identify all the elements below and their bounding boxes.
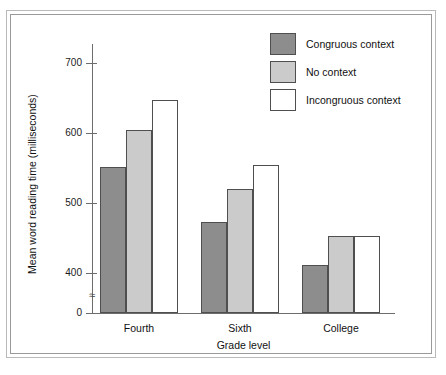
- y-axis-title: Mean word reading time (milliseconds): [26, 89, 38, 279]
- legend-label: Congruous context: [306, 38, 394, 50]
- bar: [227, 189, 253, 313]
- x-axis-group-label: Sixth: [183, 322, 297, 334]
- y-axis-tick-label: 500: [38, 198, 82, 208]
- bar: [126, 130, 152, 313]
- legend-swatch: [270, 61, 296, 83]
- y-axis-tick-label: 600: [38, 128, 82, 138]
- legend-swatch: [270, 89, 296, 111]
- bar: [302, 265, 328, 313]
- legend-label: No context: [306, 66, 356, 78]
- axis-break-icon: ≈: [86, 289, 98, 301]
- bar: [354, 236, 380, 313]
- x-axis-line: [92, 313, 395, 314]
- bar: [100, 167, 126, 313]
- bar: [328, 236, 354, 313]
- x-axis-group-label: College: [284, 322, 398, 334]
- x-axis-group-label: Fourth: [82, 322, 196, 334]
- y-axis-tick: [86, 133, 97, 134]
- y-axis-tick: [86, 273, 97, 274]
- bar-chart: 0400500600700 ≈ Mean word reading time (…: [0, 0, 446, 375]
- x-axis-title: Grade level: [92, 339, 395, 351]
- y-axis-tick-label: 400: [38, 268, 82, 278]
- y-axis-tick: [86, 313, 97, 314]
- bar: [152, 100, 178, 313]
- y-axis-tick: [86, 203, 97, 204]
- legend-label: Incongruous context: [306, 94, 401, 106]
- y-axis-tick-label: 0: [38, 308, 82, 318]
- figure-root: 0400500600700 ≈ Mean word reading time (…: [0, 0, 446, 375]
- y-axis-tick: [86, 63, 97, 64]
- bar: [201, 222, 227, 313]
- y-axis-tick-label: 700: [38, 58, 82, 68]
- legend-swatch: [270, 33, 296, 55]
- bar: [253, 165, 279, 314]
